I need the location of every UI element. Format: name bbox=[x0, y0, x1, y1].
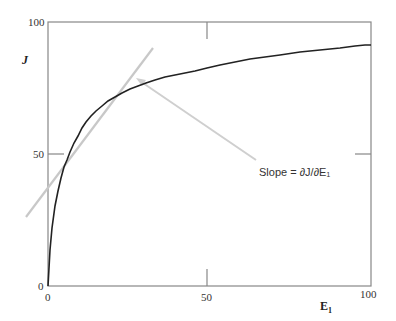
x-tick-label-50: 50 bbox=[201, 291, 213, 303]
y-tick-label-50: 50 bbox=[33, 148, 45, 160]
y-tick-label-100: 100 bbox=[28, 16, 45, 28]
x-tick-label-0: 0 bbox=[45, 291, 51, 303]
x-axis-title-sub: 1 bbox=[328, 306, 332, 315]
chart: 100 50 0 0 50 100 J E1 Slope = ∂J/∂E₁ bbox=[0, 0, 396, 321]
y-axis-title: J bbox=[21, 53, 29, 67]
plot-frame bbox=[48, 22, 371, 286]
tangent-line bbox=[26, 48, 153, 217]
x-axis-title-main: E bbox=[320, 299, 328, 313]
x-tick-label-100: 100 bbox=[360, 288, 377, 300]
y-tick-label-0: 0 bbox=[38, 280, 44, 292]
annotation-arrow bbox=[140, 81, 256, 160]
slope-annotation: Slope = ∂J/∂E₁ bbox=[259, 166, 330, 178]
x-axis-title: E1 bbox=[320, 299, 332, 315]
